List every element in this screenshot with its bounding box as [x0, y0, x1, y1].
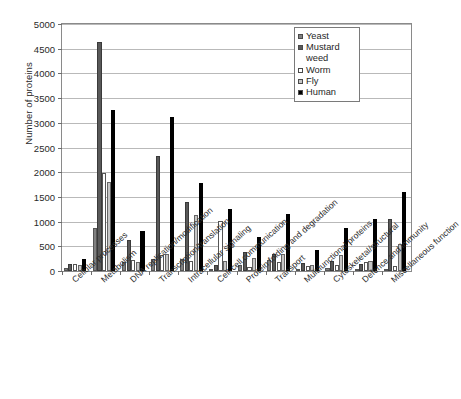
x-axis-category-labels: Cellular processesMetabolismDNA replicat… [0, 0, 424, 399]
protein-count-bar-chart: Number of proteins 050010001500200025003… [0, 0, 424, 399]
